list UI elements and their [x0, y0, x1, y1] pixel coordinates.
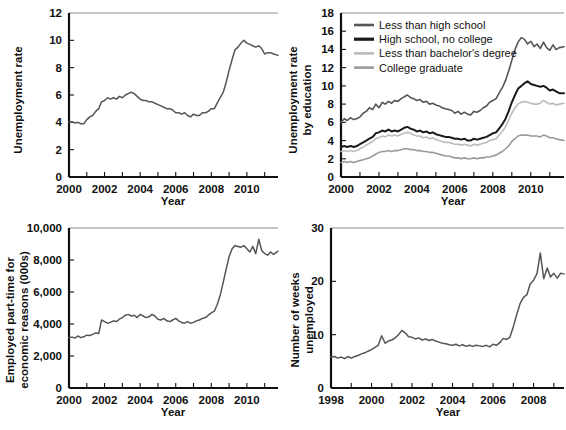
y-axis-title-group: Employed part-time for economic reasons …: [4, 251, 30, 389]
panel-weeks-unemployed: Number of weeks unemployed 0102030 19982…: [283, 215, 566, 430]
panel-unemployment-by-education: Unemployment rate by education 024681012…: [283, 0, 566, 215]
y-tick-label: 8: [328, 98, 335, 110]
y-tick-label: 20: [311, 275, 324, 287]
panel-unemployment-rate: Unemployment rate 024681012 200020022004…: [0, 0, 283, 215]
y-tick-label: 8,000: [33, 254, 62, 266]
x-tick-label: 2010: [234, 183, 260, 195]
x-tick-label: 2004: [127, 394, 153, 406]
x-axis-title: Year: [441, 195, 466, 207]
y-tick-labels: 024681012: [49, 7, 62, 183]
y-tick-label: 4,000: [33, 318, 62, 330]
x-tick-label: 2002: [366, 183, 392, 195]
y-tick-label: 2: [328, 153, 334, 165]
axis-tick-marks: [69, 260, 265, 388]
data-line-weeks-unemployed: [331, 253, 564, 359]
x-tick-labels: 200020022004200620082010: [56, 394, 259, 406]
y-tick-label: 0: [328, 171, 334, 183]
data-line-series-2: [341, 100, 564, 151]
panel-weeks-unemployed-svg: Number of weeks unemployed 0102030 19982…: [283, 215, 566, 430]
y-axis-title-line2: unemployed: [303, 286, 315, 354]
axis-tick-marks: [331, 281, 554, 388]
x-tick-label: 2004: [127, 183, 153, 195]
x-tick-label: 2002: [92, 394, 118, 406]
x-tick-label: 2002: [399, 394, 425, 406]
x-axis-title: Year: [436, 406, 461, 418]
y-axis-title-line1: Unemployment rate: [287, 46, 299, 153]
y-axis-title-line1: Number of weeks: [289, 272, 301, 367]
x-tick-label: 2000: [56, 183, 82, 195]
panel-employed-part-time-svg: Employed part-time for economic reasons …: [0, 215, 283, 430]
y-axis-title-line1: Employed part-time for: [4, 257, 16, 383]
y-tick-label: 12: [321, 62, 334, 74]
y-tick-label: 12: [49, 7, 62, 19]
y-tick-label: 16: [321, 25, 334, 37]
y-tick-label: 2: [56, 144, 62, 156]
y-tick-label: 6: [328, 116, 334, 128]
panel-unemployment-by-education-svg: Unemployment rate by education 024681012…: [283, 0, 566, 215]
y-tick-label: 10: [49, 34, 62, 46]
y-tick-label: 30: [311, 222, 324, 234]
x-tick-label: 2000: [359, 394, 385, 406]
y-tick-label: 4: [328, 135, 335, 147]
x-tick-label: 2008: [199, 394, 225, 406]
data-line-employed-part-time: [69, 239, 278, 338]
y-tick-label: 4: [56, 116, 63, 128]
x-tick-label: 2006: [163, 394, 189, 406]
y-tick-label: 0: [56, 171, 62, 183]
y-tick-label: 18: [321, 7, 334, 19]
y-tick-label: 6: [56, 89, 62, 101]
x-tick-label: 1998: [318, 394, 344, 406]
y-axis-title-group: Unemployment rate: [12, 46, 24, 153]
y-tick-label: 0: [318, 382, 324, 394]
x-axis-title: Year: [161, 195, 186, 207]
x-tick-label: 2004: [404, 183, 430, 195]
x-tick-label: 2006: [442, 183, 468, 195]
y-tick-label: 0: [56, 382, 62, 394]
y-tick-label: 10: [311, 329, 324, 341]
legend-label-0: Less than high school: [379, 19, 485, 31]
legend-label-1: High school, no college: [379, 33, 493, 45]
x-tick-label: 2006: [163, 183, 189, 195]
y-axis-title-group: Unemployment rate by education: [287, 46, 313, 153]
x-tick-label: 2000: [328, 183, 354, 195]
x-axis-title: Year: [161, 406, 186, 418]
y-tick-label: 10,000: [27, 222, 62, 234]
data-line-series-1: [341, 81, 564, 147]
x-tick-label: 2004: [440, 394, 466, 406]
y-tick-label: 6,000: [33, 286, 62, 298]
y-axis-title-line2: economic reasons (000s): [18, 251, 30, 389]
multi-panel-unemployment-figure: Unemployment rate 024681012 200020022004…: [0, 0, 566, 430]
x-tick-label: 2008: [199, 183, 225, 195]
x-tick-label: 2002: [92, 183, 118, 195]
y-tick-labels: 024681012141618: [321, 7, 334, 183]
x-tick-label: 2008: [480, 183, 506, 195]
x-tick-label: 2008: [521, 394, 547, 406]
x-tick-label: 2006: [480, 394, 506, 406]
x-tick-label: 2010: [234, 394, 260, 406]
y-axis-title: Unemployment rate: [12, 46, 24, 153]
panel-employed-part-time: Employed part-time for economic reasons …: [0, 215, 283, 430]
legend: Less than high schoolHigh school, no col…: [354, 19, 517, 74]
y-tick-label: 10: [321, 80, 334, 92]
panel-unemployment-rate-svg: Unemployment rate 024681012 200020022004…: [0, 0, 283, 215]
x-tick-label: 2010: [518, 183, 544, 195]
data-line-unemployment-rate: [69, 40, 278, 123]
x-tick-labels: 200020022004200620082010: [328, 183, 543, 195]
y-tick-label: 2,000: [33, 350, 62, 362]
y-tick-label: 8: [56, 62, 63, 74]
y-tick-label: 14: [321, 43, 334, 55]
legend-label-2: Less than bachelor's degree: [379, 47, 517, 59]
y-tick-labels: 02,0004,0006,0008,00010,000: [27, 222, 62, 394]
x-tick-labels: 200020022004200620082010: [56, 183, 259, 195]
x-tick-labels: 199820002002200420062008: [318, 394, 547, 406]
legend-label-3: College graduate: [379, 62, 463, 74]
y-axis-title-line2: by education: [301, 65, 313, 136]
x-tick-label: 2000: [56, 394, 82, 406]
